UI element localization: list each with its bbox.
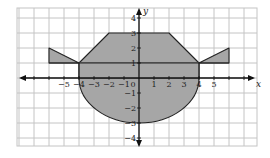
x-tick-label: 5 xyxy=(211,80,216,89)
x-tick-label: −5 xyxy=(58,80,70,89)
y-tick-label: −1 xyxy=(124,89,136,98)
x-tick-label: 0 xyxy=(130,80,135,89)
x-tick-label: −3 xyxy=(88,80,100,89)
x-tick-label: −2 xyxy=(103,80,115,89)
x-tick-label: 4 xyxy=(196,80,201,89)
x-tick-label: −1 xyxy=(118,80,130,89)
x-tick-label: −4 xyxy=(73,80,85,89)
y-tick-label: 1 xyxy=(131,59,136,68)
y-tick-label: 3 xyxy=(131,29,136,38)
y-tick-label: 2 xyxy=(131,44,136,53)
coordinate-plane: −5−4−3−2−10123454321−1−2−3−4 x y xyxy=(0,0,270,158)
x-tick-label: 3 xyxy=(181,80,186,89)
y-tick-label: −2 xyxy=(124,104,136,113)
x-axis-label: x xyxy=(256,79,261,89)
x-tick-label: 1 xyxy=(151,80,156,89)
x-tick-label: 2 xyxy=(166,80,171,89)
y-axis-label: y xyxy=(142,6,149,16)
y-tick-label: 4 xyxy=(131,14,136,23)
y-tick-label: −3 xyxy=(124,119,136,128)
y-tick-label: −4 xyxy=(124,134,136,143)
